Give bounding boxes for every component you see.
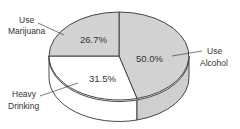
category-label-heavy-line1: Heavy	[12, 89, 37, 99]
value-label-marijuana: 26.7%	[80, 34, 107, 45]
value-label-heavy: 31.5%	[89, 73, 116, 84]
category-label-marijuana-line2: Marijuana	[8, 26, 46, 36]
pie-chart: 26.7% 50.0% 31.5% Use Marijuana Use Alco…	[0, 0, 240, 129]
category-label-heavy-line2: Drinking	[8, 101, 39, 111]
category-label-marijuana-line1: Use	[19, 15, 34, 25]
value-label-alcohol: 50.0%	[136, 53, 163, 64]
category-label-alcohol-line2: Alcohol	[200, 58, 228, 68]
pie-top	[49, 12, 189, 100]
category-label-alcohol-line1: Use	[207, 46, 222, 56]
